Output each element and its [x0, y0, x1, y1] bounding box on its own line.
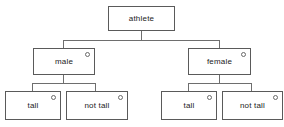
- circle-icon: [241, 52, 246, 57]
- edge-female-to-not-tall: [251, 83, 252, 91]
- node-female-not-tall[interactable]: not tall: [222, 91, 283, 120]
- node-male-tall[interactable]: tall: [5, 91, 61, 120]
- node-male-not-tall-label: not tall: [84, 102, 109, 110]
- edge-root-to-male: [63, 40, 64, 48]
- node-athlete-label: athlete: [129, 15, 154, 23]
- edge-male-stem: [63, 75, 64, 83]
- edge-root-to-female: [219, 40, 220, 48]
- node-athlete[interactable]: athlete: [108, 6, 175, 31]
- circle-icon: [51, 95, 56, 100]
- edge-male-to-tall: [32, 83, 33, 91]
- node-female-label: female: [207, 58, 232, 66]
- circle-icon: [118, 95, 123, 100]
- node-female-tall[interactable]: tall: [161, 91, 217, 120]
- node-male-label: male: [55, 58, 73, 66]
- circle-icon: [273, 95, 278, 100]
- edge-male-bar: [32, 83, 95, 84]
- edge-male-to-not-tall: [95, 83, 96, 91]
- node-male-not-tall[interactable]: not tall: [66, 91, 128, 120]
- circle-icon: [85, 52, 90, 57]
- decision-tree-diagram: athlete male female tall not tall tall n…: [0, 0, 284, 127]
- edge-root-stem: [141, 31, 142, 40]
- node-male[interactable]: male: [33, 48, 95, 75]
- edge-female-stem: [219, 75, 220, 83]
- edge-female-to-tall: [188, 83, 189, 91]
- edge-female-bar: [188, 83, 251, 84]
- node-female[interactable]: female: [188, 48, 251, 75]
- circle-icon: [207, 95, 212, 100]
- node-female-not-tall-label: not tall: [240, 102, 265, 110]
- edge-root-bar: [63, 40, 219, 41]
- node-female-tall-label: tall: [183, 102, 194, 110]
- node-male-tall-label: tall: [27, 102, 38, 110]
